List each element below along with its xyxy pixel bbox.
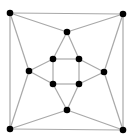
graph-node-bl [7,126,14,133]
graph-edge [104,72,123,130]
graph-edge [10,129,123,130]
graph-edge [10,13,67,32]
graph-node-br [120,127,127,134]
graph-svg [0,0,131,140]
graph-node-ibl [50,81,57,88]
graph-node-tr [120,11,127,18]
graph-edge [67,32,79,59]
graph-node-itl [50,56,57,63]
graph-edge [10,13,123,14]
graph-edge [10,13,29,71]
graph-node-top [64,29,71,36]
graph-edge [67,84,79,110]
graph-edge [67,14,123,32]
graph-node-ibr [76,81,83,88]
graph-diagram [0,0,131,140]
graph-edge [104,14,123,72]
graph-edge [79,59,104,72]
graph-edge [29,59,53,71]
graph-node-tl [7,10,14,17]
graph-node-bottom [64,107,71,114]
graph-edge [53,32,67,59]
graph-node-right [101,69,108,76]
graph-edge [10,110,67,129]
graph-edge [10,71,29,129]
graph-edge [79,72,104,84]
graph-edge [53,84,67,110]
graph-node-itr [76,56,83,63]
graph-edge [29,71,53,84]
graph-edge [67,110,123,130]
graph-node-left [26,68,33,75]
